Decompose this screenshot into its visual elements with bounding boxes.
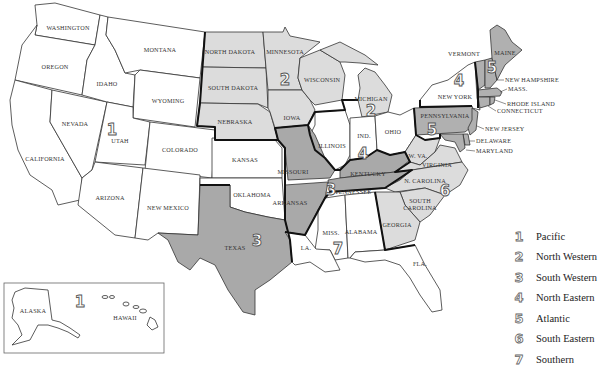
label-kansas: KANSAS [232, 156, 258, 163]
legend-label: Southern [536, 354, 574, 365]
region-marker-1: 1 [107, 121, 117, 139]
leader-maryland [466, 150, 475, 151]
legend-number: 2 [508, 249, 530, 264]
hawaii-island-molokai [123, 302, 129, 306]
region-marker-5-ne: 5 [487, 59, 497, 77]
label-indiana: IND. [357, 132, 371, 139]
legend-number: 6 [508, 331, 530, 346]
label-washington: WASHINGTON [46, 24, 89, 31]
state-alaska[interactable] [12, 288, 80, 345]
label-south-carolina-2: CAROLINA [403, 204, 437, 211]
label-rhode-island: RHODE ISLAND [507, 100, 555, 107]
legend-number: 7 [508, 352, 530, 367]
legend-item: 2 North Western [508, 247, 599, 268]
region-marker-3-texas: 3 [252, 232, 262, 250]
legend-number: 5 [508, 311, 530, 326]
hawaii-island-maui-small [133, 306, 139, 309]
legend-item: 3 South Western [508, 267, 599, 288]
leader-connecticut [488, 106, 496, 111]
label-mass: MASS. [508, 85, 528, 92]
legend-label: Atlantic [536, 313, 570, 324]
legend-item: 4 North Eastern [508, 288, 599, 309]
legend-label: North Eastern [536, 292, 595, 303]
label-new-mexico: NEW MEXICO [147, 204, 189, 211]
label-iowa: IOWA [284, 114, 301, 121]
label-new-york: NEW YORK [438, 93, 473, 100]
label-arizona: ARIZONA [95, 194, 125, 201]
region-marker-3-tn: 3 [326, 181, 336, 199]
label-pennsylvania: PENNSYLVANIA [421, 112, 470, 119]
label-arkansas: ARKANSAS [273, 199, 308, 206]
label-alabama: ALABAMA [345, 228, 378, 235]
label-west-virginia: W. VA. [408, 152, 427, 159]
leader-new-jersey [477, 126, 484, 129]
state-florida[interactable] [350, 245, 442, 312]
state-new-york[interactable] [420, 62, 480, 110]
label-illinois: ILLINOIS [318, 142, 346, 149]
state-mass[interactable] [478, 88, 502, 97]
label-florida: FLA. [413, 260, 427, 267]
hawaii-islands [102, 296, 158, 331]
region-marker-1-inset: 1 [75, 293, 85, 311]
label-oregon: OREGON [42, 63, 69, 70]
legend-number: 3 [508, 270, 530, 285]
label-south-carolina-1: SOUTH [409, 197, 431, 204]
legend-label: Pacific [536, 231, 565, 242]
label-connecticut: CONNECTICUT [497, 107, 543, 114]
label-vermont: VERMONT [448, 50, 480, 57]
label-nebraska: NEBRASKA [218, 118, 253, 125]
label-kentucky: KENTUCKY [350, 170, 386, 177]
label-texas: TEXAS [225, 244, 246, 251]
label-oklahoma: OKLAHOMA [233, 191, 271, 198]
region-legend: 1 Pacific 2 North Western 3 South Wester… [508, 226, 599, 367]
label-north-dakota: NORTH DAKOTA [205, 48, 256, 55]
legend-number: 1 [508, 229, 530, 244]
label-south-dakota: SOUTH DAKOTA [208, 84, 259, 91]
hawaii-island-big[interactable] [147, 317, 158, 330]
legend-item: 1 Pacific [508, 226, 599, 247]
region-marker-4-ny: 4 [454, 72, 464, 90]
label-alaska: ALASKA [20, 307, 47, 314]
region-marker-5-pa: 5 [427, 121, 437, 139]
leader-rhode-island [495, 100, 506, 104]
state-rhode-island[interactable] [490, 97, 495, 105]
label-michigan: MICHIGAN [354, 95, 388, 102]
label-california: CALIFORNIA [25, 155, 65, 162]
hawaii-island-kauai [102, 296, 108, 299]
leader-mass [500, 89, 507, 92]
legend-number: 4 [508, 290, 530, 305]
legend-item: 7 Southern [508, 349, 599, 367]
label-maryland: MARYLAND [476, 147, 513, 154]
region-marker-2-west: 2 [280, 71, 290, 89]
label-ohio: OHIO [385, 128, 402, 135]
label-new-jersey: NEW JERSEY [485, 125, 525, 132]
region-marker-7: 7 [333, 240, 343, 258]
state-pennsylvania[interactable] [414, 106, 475, 135]
label-missouri: MISSOURI [277, 168, 308, 175]
label-idaho: IDAHO [97, 80, 118, 87]
region-marker-4-ind: 4 [358, 145, 368, 163]
label-virginia: VIRGINIA [422, 161, 452, 168]
alaska-hawaii-inset: ALASKA 1 HAWAII [4, 283, 164, 353]
label-minnesota: MINNESOTA [266, 48, 304, 55]
hawaii-island-maui [140, 309, 147, 313]
label-tennessee: TENNESSEE [335, 188, 372, 195]
label-maine: MAINE [494, 49, 515, 56]
label-hawaii: HAWAII [113, 314, 136, 321]
label-nevada: NEVADA [62, 120, 89, 127]
region-marker-2-east: 2 [366, 102, 376, 120]
label-louisiana: LA. [301, 244, 312, 251]
legend-label: South Eastern [536, 333, 595, 344]
legend-item: 6 South Eastern [508, 329, 599, 350]
label-montana: MONTANA [144, 46, 177, 53]
label-georgia: GEORGIA [382, 221, 412, 228]
region-marker-6: 6 [440, 182, 450, 200]
label-colorado: COLORADO [162, 146, 198, 153]
label-delaware: DELAWARE [476, 137, 511, 144]
hawaii-island-oahu [110, 296, 115, 299]
legend-label: South Western [536, 272, 597, 283]
label-new-hampshire: NEW HAMPSHIRE [505, 76, 559, 83]
label-mississippi: MISS. [323, 229, 340, 236]
legend-item: 5 Atlantic [508, 308, 599, 329]
label-wyoming: WYOMING [152, 97, 185, 104]
